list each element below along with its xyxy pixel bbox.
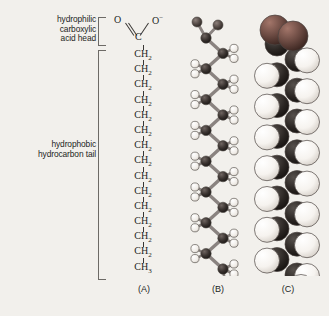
ball-and-stick-svg (186, 14, 252, 276)
chain-bond (143, 121, 144, 126)
hydrogen-atom (230, 54, 238, 62)
space-filling-model (252, 14, 324, 276)
hydrogen-atom (230, 106, 238, 114)
chain-bond (143, 197, 144, 202)
hydrogen-sphere (295, 48, 320, 73)
hydrogen-sphere (295, 233, 320, 258)
oxygen-double-bonded-label: O (114, 14, 121, 25)
chain-bond (143, 182, 144, 187)
carbon-atom (218, 141, 228, 151)
hydrogen-atom (230, 178, 238, 186)
hydrogen-sphere (295, 110, 320, 135)
hydrogen-atom (230, 208, 238, 216)
carbon-atom (218, 233, 228, 243)
hydrogen-sphere (255, 94, 280, 119)
hydrogen-atom (230, 260, 238, 268)
hydrogen-atom (230, 239, 238, 247)
hydrogen-atom (191, 91, 199, 99)
carbon-atom (201, 33, 211, 43)
carbon-atom (201, 218, 211, 228)
chain-bond (143, 106, 144, 111)
hydrogen-atom (230, 270, 238, 276)
hydrogen-atom (191, 152, 199, 160)
hydrogen-atom (230, 147, 238, 155)
carbon-atom (218, 171, 228, 181)
hydrogen-atom (191, 245, 199, 253)
hydrocarbon-chain: CH2CH2CH2CH2CH2CH2CH2CH2CH2CH2CH2CH2CH2C… (112, 48, 174, 276)
chain-bond (143, 167, 144, 172)
carboxyl-carbon-label: C (135, 31, 142, 42)
carbon-atom (201, 248, 211, 258)
hydrogen-atom (230, 44, 238, 52)
hydrogen-sphere (295, 140, 320, 165)
hydrogen-sphere (295, 202, 320, 227)
hydrophobic-tail-label: hydrophobic hydrocarbon tail (6, 140, 96, 159)
oxygen-anion-label: O− (152, 14, 163, 26)
hydrogen-atom (230, 168, 238, 176)
hydrogen-atom (191, 162, 199, 170)
hydrogen-sphere (255, 156, 280, 181)
head-bracket (98, 17, 106, 46)
oxygen-anion-charge: − (159, 14, 163, 22)
hydrogen-atom (191, 224, 199, 232)
hydrogen-atom (230, 198, 238, 206)
hydrogen-atom (230, 85, 238, 93)
hydrogen-atom (230, 75, 238, 83)
hydrophilic-head-label: hydrophilic carboxylic acid head (16, 15, 96, 44)
ball-and-stick-model (186, 14, 252, 276)
chain-bond (143, 227, 144, 232)
chain-bond (143, 75, 144, 80)
carbon-atom (218, 110, 228, 120)
chain-bond (143, 242, 144, 247)
hydrogen-atom (230, 137, 238, 145)
caption-a: (A) (124, 284, 164, 294)
carboxylate-head-group: O O− C (112, 14, 174, 48)
space-filling-svg (252, 14, 324, 276)
hydrogen-atom (191, 70, 199, 78)
chain-bond (143, 212, 144, 217)
hydrogen-sphere (295, 171, 320, 196)
hydrogen-atom (191, 101, 199, 109)
hydrogen-atom (191, 60, 199, 68)
chain-bond (143, 60, 144, 65)
chain-bond (143, 151, 144, 156)
oxygen-sphere (278, 21, 308, 51)
oxygen-atom (192, 17, 202, 27)
carbon-atom (201, 64, 211, 74)
hydrogen-sphere (255, 187, 280, 212)
hydrogen-atom (191, 255, 199, 263)
hydrogen-atom (191, 121, 199, 129)
chain-bond (143, 136, 144, 141)
tail-bracket (98, 50, 106, 280)
carbon-atom (218, 79, 228, 89)
fatty-acid-figure: hydrophilic carboxylic acid head hydroph… (0, 0, 329, 316)
hydrogen-sphere (255, 63, 280, 88)
chain-bond (143, 45, 144, 50)
carbon-atom (218, 202, 228, 212)
chain-bond (143, 91, 144, 96)
head-label-line-3: acid head (16, 34, 96, 44)
caption-b: (B) (198, 284, 238, 294)
carbon-atom (201, 156, 211, 166)
hydrogen-atom (191, 193, 199, 201)
hydrogen-sphere (295, 79, 320, 104)
hydrogen-atom (230, 229, 238, 237)
carbon-atom (218, 264, 228, 274)
carbon-atom (218, 48, 228, 58)
tail-label-line-2: hydrocarbon tail (6, 150, 96, 160)
hydrogen-sphere (255, 248, 280, 273)
hydrogen-atom (191, 131, 199, 139)
chain-bond (143, 258, 144, 263)
structural-formula-column: O O− C CH2CH2CH2CH2CH2CH2CH2CH2CH2CH2CH2… (112, 14, 174, 276)
hydrogen-sphere (255, 217, 280, 242)
chain-terminal-ch3: CH3 (112, 261, 174, 276)
hydrogen-sphere (255, 125, 280, 150)
hydrogen-atom (191, 214, 199, 222)
caption-c: (C) (268, 284, 308, 294)
carbon-atom (201, 94, 211, 104)
carbon-atom (201, 125, 211, 135)
oxygen-atom (213, 20, 223, 30)
hydrogen-atom (191, 183, 199, 191)
carbon-atom (201, 187, 211, 197)
hydrogen-atom (230, 116, 238, 124)
